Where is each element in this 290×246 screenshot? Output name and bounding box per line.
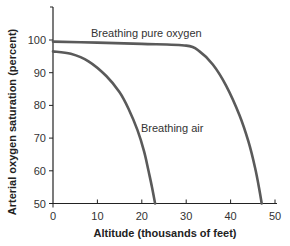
x-tick-label: 10 bbox=[91, 210, 103, 222]
y-tick-label: 50 bbox=[34, 198, 46, 210]
y-axis-title: Arterial oxygen saturation (percent) bbox=[6, 28, 18, 215]
x-axis: 01020304050 bbox=[50, 200, 281, 222]
x-tick-label: 30 bbox=[180, 210, 192, 222]
y-tick-label: 60 bbox=[34, 165, 46, 177]
oxygen-saturation-chart: 5060708090100 01020304050 Breathing pure… bbox=[0, 0, 290, 246]
y-axis: 5060708090100 bbox=[28, 7, 53, 210]
oxygen-curve-label: Breathing pure oxygen bbox=[91, 27, 202, 39]
x-tick-label: 40 bbox=[224, 210, 236, 222]
y-tick-label: 80 bbox=[34, 99, 46, 111]
y-tick-label: 70 bbox=[34, 132, 46, 144]
y-tick-label: 100 bbox=[28, 34, 46, 46]
breathing-air-curve bbox=[53, 51, 155, 203]
air-curve-label: Breathing air bbox=[141, 122, 204, 134]
x-axis-title: Altitude (thousands of feet) bbox=[94, 227, 237, 239]
x-tick-label: 50 bbox=[269, 210, 281, 222]
x-tick-label: 20 bbox=[136, 210, 148, 222]
y-tick-label: 90 bbox=[34, 67, 46, 79]
x-tick-label: 0 bbox=[50, 210, 56, 222]
